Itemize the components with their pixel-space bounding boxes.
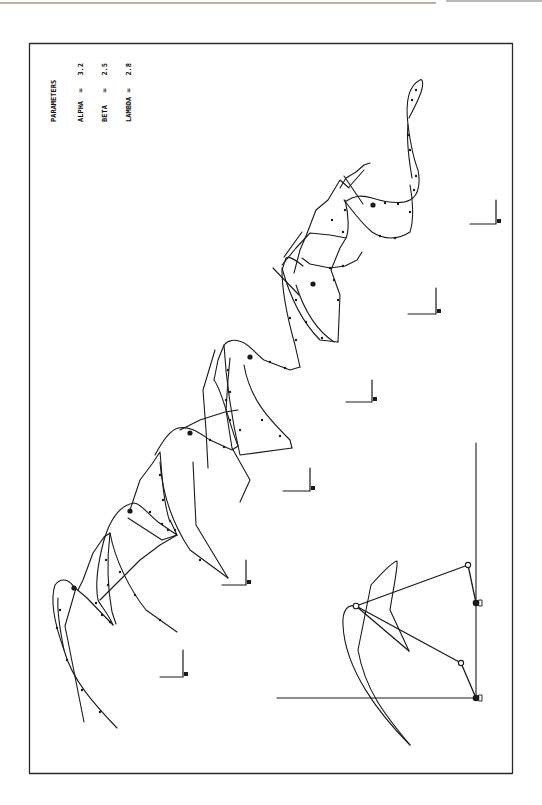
param-beta: BETA = 2.5 — [101, 63, 109, 122]
moving-joint-2 — [458, 660, 463, 665]
param-eq: = — [125, 88, 133, 92]
axis-marker — [283, 468, 310, 491]
axis-marker — [222, 560, 246, 585]
axis-marker — [470, 200, 496, 224]
axis-marker — [346, 380, 372, 402]
rocker-link-2 — [461, 663, 476, 698]
param-value: 2.8 — [125, 63, 133, 76]
rocker-link-1 — [468, 565, 476, 603]
param-name: ALPHA — [77, 101, 85, 122]
crank-link-2 — [356, 606, 461, 663]
param-value: 2.5 — [101, 63, 109, 76]
param-alpha: ALPHA = 3.2 — [77, 63, 85, 122]
crank-link-1 — [356, 565, 468, 606]
coupler-extension — [356, 606, 409, 651]
axis-marker — [160, 650, 183, 677]
param-value: 3.2 — [77, 63, 85, 76]
trajectory-curves — [53, 80, 423, 728]
param-name: LAMBDA — [125, 97, 133, 122]
mechanism-coupler-curve — [343, 606, 410, 745]
ground-pivot-1 — [473, 600, 480, 607]
ground-pivot-2 — [473, 695, 480, 702]
param-eq: = — [77, 88, 85, 92]
linkage-mechanism — [277, 443, 476, 745]
parameters-legend: PARAMETERS ALPHA = 3.2 BETA = 2.5 LAMBDA… — [34, 63, 141, 122]
param-lambda: LAMBDA = 2.8 — [125, 63, 133, 122]
axis-marker — [408, 288, 436, 314]
parameters-title: PARAMETERS — [50, 63, 58, 122]
param-name: BETA — [101, 105, 109, 122]
coupler-joint — [353, 603, 359, 609]
moving-joint-1 — [465, 562, 470, 567]
axis-markers — [160, 200, 496, 677]
param-eq: = — [101, 88, 109, 92]
plot-frame — [30, 44, 513, 774]
